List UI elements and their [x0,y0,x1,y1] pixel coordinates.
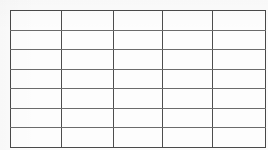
table-cell[interactable] [114,11,163,31]
table-cell[interactable] [11,128,62,148]
table-row[interactable] [11,69,266,89]
table-cell[interactable] [62,89,114,109]
table-cell[interactable] [213,128,266,148]
table-cell[interactable] [163,69,213,89]
table-cell[interactable] [11,89,62,109]
table-row[interactable] [11,108,266,128]
table-cell[interactable] [62,69,114,89]
table-row[interactable] [11,50,266,70]
table-body [11,11,266,148]
table-cell[interactable] [114,89,163,109]
table-cell[interactable] [114,50,163,70]
page-canvas [0,0,268,150]
table-cell[interactable] [114,30,163,50]
table-cell[interactable] [163,128,213,148]
table-cell[interactable] [163,11,213,31]
table-cell[interactable] [213,108,266,128]
table-cell[interactable] [11,11,62,31]
table-cell[interactable] [163,89,213,109]
table-cell[interactable] [114,69,163,89]
table-cell[interactable] [62,30,114,50]
table-cell[interactable] [62,50,114,70]
table-cell[interactable] [62,108,114,128]
table-cell[interactable] [213,50,266,70]
table-cell[interactable] [163,108,213,128]
table-cell[interactable] [213,30,266,50]
table-cell[interactable] [11,30,62,50]
blank-grid-table[interactable] [10,10,266,148]
table-row[interactable] [11,11,266,31]
table-cell[interactable] [11,108,62,128]
table-cell[interactable] [11,50,62,70]
table-cell[interactable] [163,30,213,50]
table-cell[interactable] [11,69,62,89]
table-cell[interactable] [62,11,114,31]
table-cell[interactable] [114,108,163,128]
table-cell[interactable] [163,50,213,70]
table-row[interactable] [11,30,266,50]
table-row[interactable] [11,128,266,148]
table-cell[interactable] [62,128,114,148]
table-cell[interactable] [213,11,266,31]
table-cell[interactable] [213,69,266,89]
table-row[interactable] [11,89,266,109]
table-cell[interactable] [114,128,163,148]
table-cell[interactable] [213,89,266,109]
